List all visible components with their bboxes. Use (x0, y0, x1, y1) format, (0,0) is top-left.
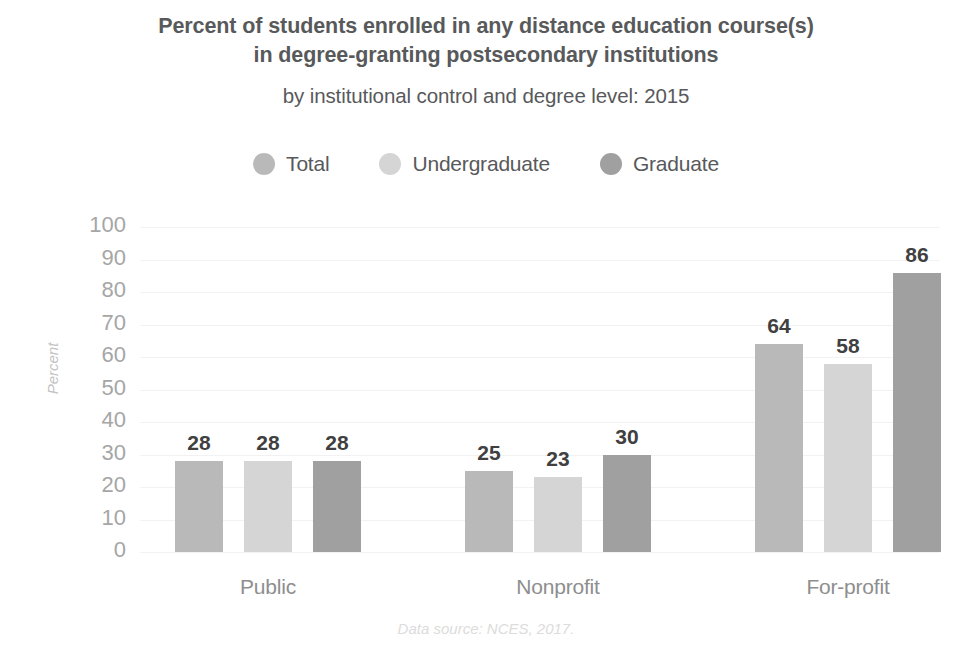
bar-value-label: 28 (175, 431, 223, 455)
bar-value-label: 28 (313, 431, 361, 455)
y-axis-tick-label: 50 (60, 377, 126, 399)
bar-for-profit-undergraduate[interactable]: 58 (824, 364, 872, 553)
gridline (140, 325, 940, 326)
x-axis-label-for-profit: For-profit (718, 575, 972, 599)
y-axis-tick-label: 40 (60, 409, 126, 431)
bar-rect (465, 471, 513, 552)
bar-value-label: 25 (465, 441, 513, 465)
bar-value-label: 58 (824, 334, 872, 358)
gridline (140, 227, 940, 228)
bar-for-profit-total[interactable]: 64 (755, 344, 803, 552)
axis-baseline (140, 552, 940, 553)
bar-public-total[interactable]: 28 (175, 461, 223, 552)
y-axis-tick-label: 0 (60, 539, 126, 561)
chart-plot-area: Percent 1009080706050403020100 282828252… (0, 0, 972, 649)
bar-public-graduate[interactable]: 28 (313, 461, 361, 552)
bar-value-label: 30 (603, 425, 651, 449)
y-axis-title: Percent (44, 309, 61, 429)
bar-rect (824, 364, 872, 553)
bar-nonprofit-undergraduate[interactable]: 23 (534, 477, 582, 552)
y-axis-tick-label: 30 (60, 442, 126, 464)
bar-nonprofit-total[interactable]: 25 (465, 471, 513, 552)
gridline (140, 357, 940, 358)
y-axis-tick-label: 70 (60, 312, 126, 334)
bar-nonprofit-graduate[interactable]: 30 (603, 455, 651, 553)
gridline (140, 292, 940, 293)
gridline (140, 422, 940, 423)
gridline (140, 390, 940, 391)
y-axis-tick-label: 90 (60, 247, 126, 269)
bar-value-label: 28 (244, 431, 292, 455)
y-axis-tick-label: 20 (60, 474, 126, 496)
y-axis-tick-label: 60 (60, 344, 126, 366)
bar-rect (755, 344, 803, 552)
bar-rect (175, 461, 223, 552)
bar-value-label: 23 (534, 447, 582, 471)
bar-value-label: 64 (755, 314, 803, 338)
source-note: Data source: NCES, 2017. (0, 620, 972, 637)
x-axis-label-public: Public (138, 575, 398, 599)
y-axis-tick-label: 80 (60, 279, 126, 301)
bar-rect (313, 461, 361, 552)
gridline (140, 260, 940, 261)
x-axis-label-nonprofit: Nonprofit (428, 575, 688, 599)
bar-public-undergraduate[interactable]: 28 (244, 461, 292, 552)
bar-rect (893, 273, 941, 553)
y-axis-tick-label: 10 (60, 507, 126, 529)
bar-rect (244, 461, 292, 552)
bar-rect (534, 477, 582, 552)
y-axis-tick-label: 100 (60, 214, 126, 236)
bar-for-profit-graduate[interactable]: 86 (893, 273, 941, 553)
bar-rect (603, 455, 651, 553)
bar-value-label: 86 (893, 243, 941, 267)
